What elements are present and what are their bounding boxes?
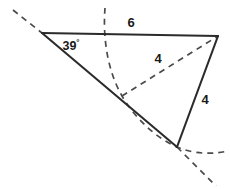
right-side-segment [177, 36, 218, 147]
right-side-label: 4 [201, 92, 209, 107]
angle-label: 39° [62, 38, 79, 53]
middle-segment-label: 4 [154, 51, 162, 66]
upper-left-extension-ray [13, 10, 42, 33]
diagram-canvas: 39° 6 4 4 [0, 0, 230, 189]
middle-chord-segment [122, 36, 218, 96]
top-side-label: 6 [127, 15, 134, 30]
top-side-segment [42, 33, 218, 36]
geometry-figure: 39° 6 4 4 [0, 0, 230, 189]
construction-arc-icon [104, 8, 228, 153]
